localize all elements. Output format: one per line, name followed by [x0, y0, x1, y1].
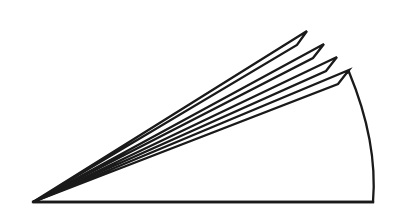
fan-wedge-diagram: [0, 0, 396, 217]
figure-canvas: [0, 0, 396, 217]
